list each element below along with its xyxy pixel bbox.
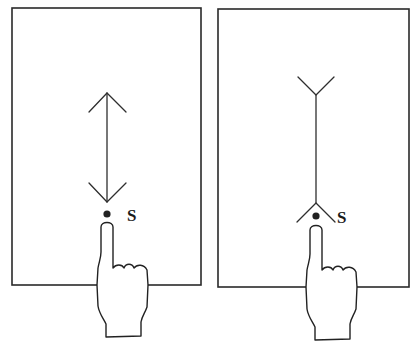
pointing-hand-icon <box>97 223 148 338</box>
figure-canvas: S S <box>0 0 413 347</box>
touch-point-dot <box>103 210 110 217</box>
pointing-hand-icon <box>306 226 357 341</box>
forked-line-icon <box>297 77 335 222</box>
touch-point-dot <box>312 212 319 219</box>
left-panel: S <box>12 8 201 337</box>
fork-top-y <box>298 77 334 95</box>
double-headed-arrow-icon <box>89 93 126 202</box>
right-panel: S <box>218 9 409 340</box>
touch-point-label: S <box>337 208 346 227</box>
touch-point-label: S <box>127 206 136 225</box>
